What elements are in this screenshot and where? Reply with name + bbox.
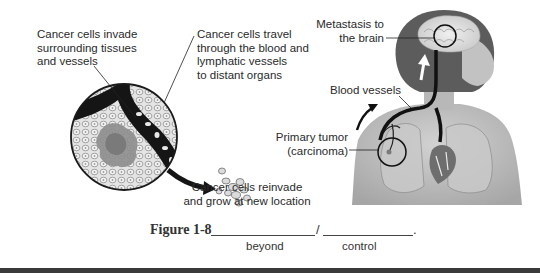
label-line: Cancer cells travel bbox=[197, 28, 309, 42]
label-line: Metastasis to bbox=[310, 18, 384, 32]
blank-answer-1[interactable] bbox=[211, 235, 315, 236]
label-travel: Cancer cells travel through the blood an… bbox=[197, 28, 309, 82]
label-line: Cancer cells invade bbox=[37, 28, 137, 42]
label-line: and vessels bbox=[37, 55, 137, 69]
label-line: (carcinoma) bbox=[270, 145, 348, 159]
label-line: to distant organs bbox=[197, 69, 309, 83]
label-line: through the blood and bbox=[197, 42, 309, 56]
label-metastasis: Metastasis to the brain bbox=[310, 18, 384, 45]
label-line: the brain bbox=[310, 32, 384, 46]
label-line: surrounding tissues bbox=[37, 42, 137, 56]
hint-control: control bbox=[342, 240, 377, 252]
figure-label: Figure 1-8 bbox=[150, 222, 212, 238]
label-line: Cancer cells reinvade bbox=[172, 181, 322, 195]
leader-line-blood-vessels bbox=[399, 96, 411, 108]
page-divider-rule bbox=[0, 268, 540, 273]
blank-separator: / bbox=[316, 222, 320, 237]
label-reinvade: Cancer cells reinvade and grow at new lo… bbox=[172, 181, 322, 208]
hint-beyond: beyond bbox=[246, 240, 284, 252]
label-blood-vessels: Blood vessels bbox=[330, 84, 401, 98]
label-line: lymphatic vessels bbox=[197, 55, 309, 69]
label-line: and grow at new location bbox=[172, 195, 322, 209]
label-invade: Cancer cells invade surrounding tissues … bbox=[37, 28, 137, 69]
blank-answer-2[interactable] bbox=[323, 235, 413, 236]
tissue-circle bbox=[60, 80, 190, 200]
leader-line-travel bbox=[164, 36, 194, 103]
label-primary-tumor: Primary tumor (carcinoma) bbox=[270, 131, 348, 158]
label-line: Primary tumor bbox=[270, 131, 348, 145]
caption-period: . bbox=[413, 222, 417, 237]
